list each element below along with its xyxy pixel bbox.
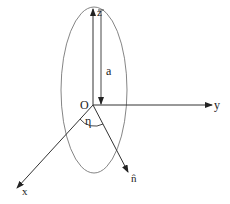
x-axis bbox=[17, 105, 93, 188]
normal-label: n̂ bbox=[131, 172, 137, 184]
angle-label: η bbox=[85, 114, 91, 128]
ellipse-disk bbox=[61, 7, 127, 173]
origin-label: O bbox=[80, 98, 89, 112]
semi-axis-label: a bbox=[106, 64, 112, 78]
angle-arc bbox=[80, 119, 103, 126]
y-axis-label: y bbox=[214, 98, 220, 112]
z-axis-label: z bbox=[97, 6, 102, 18]
x-axis-label: x bbox=[22, 185, 28, 197]
coordinate-diagram: z y x O a η n̂ bbox=[0, 0, 230, 204]
